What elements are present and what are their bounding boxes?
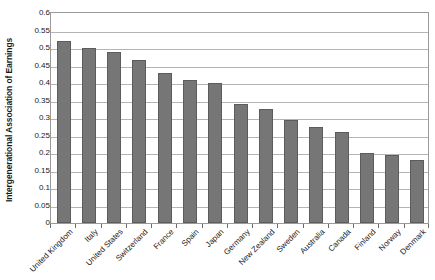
y-tick-label: 0.25 [10, 132, 50, 140]
x-tick-label: Australia [299, 228, 327, 256]
x-tick-label: Italy [84, 228, 100, 244]
bar[interactable] [335, 132, 349, 223]
x-tick-label: Sweden [276, 228, 302, 254]
gridline [51, 49, 428, 50]
x-axis-labels: United KingdomItalyUnited StatesSwitzerl… [50, 228, 435, 280]
x-tick-label: Denmark [399, 228, 428, 257]
bar[interactable] [57, 41, 71, 223]
bar[interactable] [385, 155, 399, 223]
bar[interactable] [132, 60, 146, 223]
y-tick-label: 0.4 [10, 79, 50, 87]
bar[interactable] [234, 104, 248, 223]
bar[interactable] [309, 127, 323, 223]
y-tick-label: 0.35 [10, 97, 50, 105]
y-tick-label: 0.2 [10, 149, 50, 157]
x-tick-label: Japan [205, 228, 226, 249]
plot-area [50, 12, 429, 224]
bar-chart: Intergenerational Association of Earning… [0, 0, 435, 280]
bar[interactable] [107, 52, 121, 224]
y-tick-label: 0.15 [10, 167, 50, 175]
y-tick-label: 0.6 [10, 9, 50, 17]
bar[interactable] [284, 120, 298, 223]
bar[interactable] [360, 153, 374, 223]
x-tick-label: Canada [327, 228, 352, 253]
gridline [51, 32, 428, 33]
bar[interactable] [183, 80, 197, 224]
y-tick-label: 0.55 [10, 27, 50, 35]
x-tick-label: Spain [180, 228, 200, 248]
bar[interactable] [82, 48, 96, 223]
bar[interactable] [410, 160, 424, 223]
x-tick-label: Finland [353, 228, 377, 252]
y-tick-label: 0.45 [10, 62, 50, 70]
bar[interactable] [208, 83, 222, 223]
bar[interactable] [259, 109, 273, 223]
y-tick-label: 0.5 [10, 44, 50, 52]
y-tick-label: 0.05 [10, 202, 50, 210]
y-tick-label: 0 [10, 219, 50, 227]
bar[interactable] [158, 73, 172, 224]
y-axis: 0.60.550.50.450.40.350.30.250.20.150.10.… [0, 0, 50, 240]
y-tick-label: 0.1 [10, 184, 50, 192]
y-tick-label: 0.3 [10, 114, 50, 122]
x-tick-label: France [152, 228, 175, 251]
